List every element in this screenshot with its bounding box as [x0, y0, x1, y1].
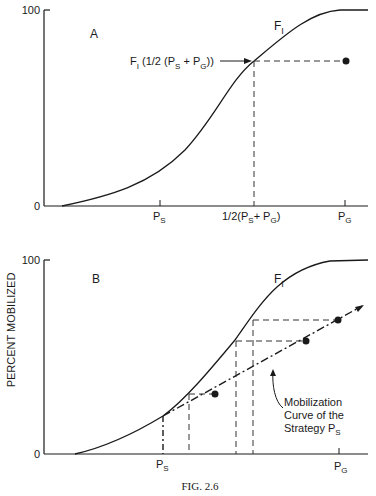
- y-tick-0: 0: [34, 200, 40, 212]
- panel-label: B: [92, 272, 100, 286]
- svg-text:Curve of the: Curve of the: [284, 409, 344, 421]
- figure: PERCENT MOBILIZED 100 0 A FI FI (1/2 (PS…: [0, 0, 376, 496]
- caption: FIG. 2.6: [182, 480, 219, 492]
- panel-b: 100 0 B FI Mobilization Curve of the Str…: [22, 254, 368, 475]
- x-tick-ps: PS: [156, 458, 169, 473]
- svg-text:Strategy PS: Strategy PS: [284, 422, 341, 437]
- x-tick-pg: PG: [334, 460, 348, 475]
- panel-a: 100 0 A FI FI (1/2 (PS + PG)) PS 1/2(PS+…: [22, 4, 368, 225]
- fi-label: FI: [274, 19, 284, 36]
- fi-label: FI: [274, 272, 284, 289]
- y-tick-100: 100: [22, 254, 40, 266]
- x-tick-ps: PS: [153, 210, 166, 225]
- y-axis-label: PERCENT MOBILIZED: [5, 273, 17, 388]
- annotation: FI (1/2 (PS + PG)): [130, 55, 214, 71]
- x-tick-mid: 1/2(PS+ PG): [222, 210, 280, 225]
- point: [343, 58, 350, 65]
- note: Mobilization: [284, 396, 342, 408]
- fi-curve: [62, 10, 368, 206]
- x-tick-pg: PG: [338, 210, 352, 225]
- arrow-icon: [355, 305, 364, 312]
- y-tick-100: 100: [22, 4, 40, 16]
- panel-label: A: [90, 27, 98, 41]
- y-tick-0: 0: [34, 448, 40, 460]
